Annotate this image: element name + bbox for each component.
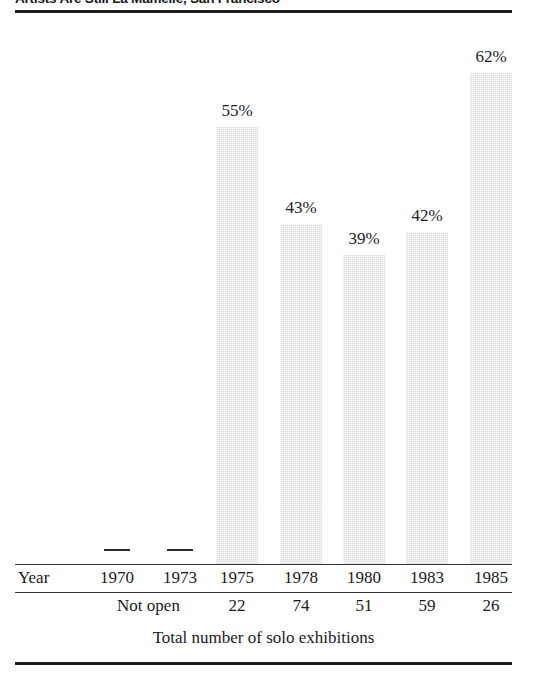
year-cell-1970: 1970 [82,568,152,588]
bar-value-label-1983: 42% [392,206,462,226]
no-data-dash-1973 [167,549,193,551]
year-row: Year 1970197319751978198019831985 [0,565,540,593]
bar-value-label-1985: 62% [456,47,526,67]
no-data-dash-1970 [104,549,130,551]
year-cell-1978: 1978 [266,568,336,588]
bar-value-label-1980: 39% [329,229,399,249]
bar-1980 [343,255,385,565]
year-cell-1980: 1980 [329,568,399,588]
count-row: Not open2274515926 [0,593,540,621]
year-cell-1975: 1975 [202,568,272,588]
count-cell-1980: 51 [329,596,399,616]
count-cell-1985: 26 [456,596,526,616]
year-cell-1983: 1983 [392,568,462,588]
count-cell-1983: 59 [392,596,462,616]
bar-1985 [470,73,512,565]
chart-caption: Total number of solo exhibitions [15,628,512,648]
bar-1978 [280,224,322,565]
year-row-header: Year [18,568,49,588]
bar-value-label-1975: 55% [202,101,272,121]
plot-area: 55%43%39%42%62% [0,0,540,565]
count-cell-1975: 22 [202,596,272,616]
bar-1975 [216,127,258,565]
year-cell-1985: 1985 [456,568,526,588]
count-cell-not-open: Not open [79,596,219,616]
bottom-rule [15,662,512,665]
count-cell-1978: 74 [266,596,336,616]
bar-value-label-1978: 43% [266,198,336,218]
bar-1983 [406,232,448,565]
bar-chart-figure: Artists Are Still La Mamelle, San Franci… [0,0,540,696]
